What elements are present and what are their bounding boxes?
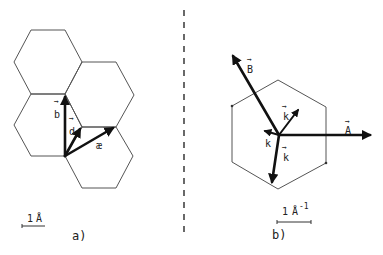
label-vector-k2: k xyxy=(265,138,271,149)
scale-label-num: 1 xyxy=(282,206,288,217)
scale-label-unit: Å xyxy=(292,205,298,217)
arrow-mark-k3: → xyxy=(282,143,287,152)
scale-label-num: 1 xyxy=(27,213,33,224)
label-vector-d: d xyxy=(69,126,75,137)
arrow-mark-B: → xyxy=(247,55,252,64)
label-vector-k1: k xyxy=(283,111,289,122)
vector-k3-arrow xyxy=(272,135,279,182)
scale-label-exp: -1 xyxy=(299,202,309,211)
panel-b-reciprocal-lattice: → A → B → k k → k 1 Å -1 b) xyxy=(231,55,370,242)
label-vector-k3: k xyxy=(283,152,289,163)
scale-label-unit: Å xyxy=(36,212,42,224)
vector-B-arrow xyxy=(233,56,279,135)
label-vector-A: A xyxy=(345,125,351,136)
label-vector-B: B xyxy=(247,64,253,75)
hexagon-middle-left xyxy=(14,94,82,156)
hexagon-top-left xyxy=(14,30,82,94)
label-vector-b: b xyxy=(54,109,60,120)
label-vector-x: æ xyxy=(96,140,102,151)
arrow-mark-b: → xyxy=(54,97,59,106)
caption-a: a) xyxy=(72,229,86,243)
panel-a-real-lattice: → b → d æ 1 Å a) xyxy=(14,30,134,243)
arrow-mark-k1: → xyxy=(282,102,287,111)
scale-bar-a: 1 Å xyxy=(22,212,45,228)
hexagon-upper-right xyxy=(65,62,134,127)
scale-bar-b: 1 Å -1 xyxy=(277,202,311,224)
caption-b: b) xyxy=(272,228,286,242)
arrow-mark-d: → xyxy=(69,114,74,123)
diagram-canvas: → b → d æ 1 Å a) → A → B → k k → xyxy=(0,0,383,255)
